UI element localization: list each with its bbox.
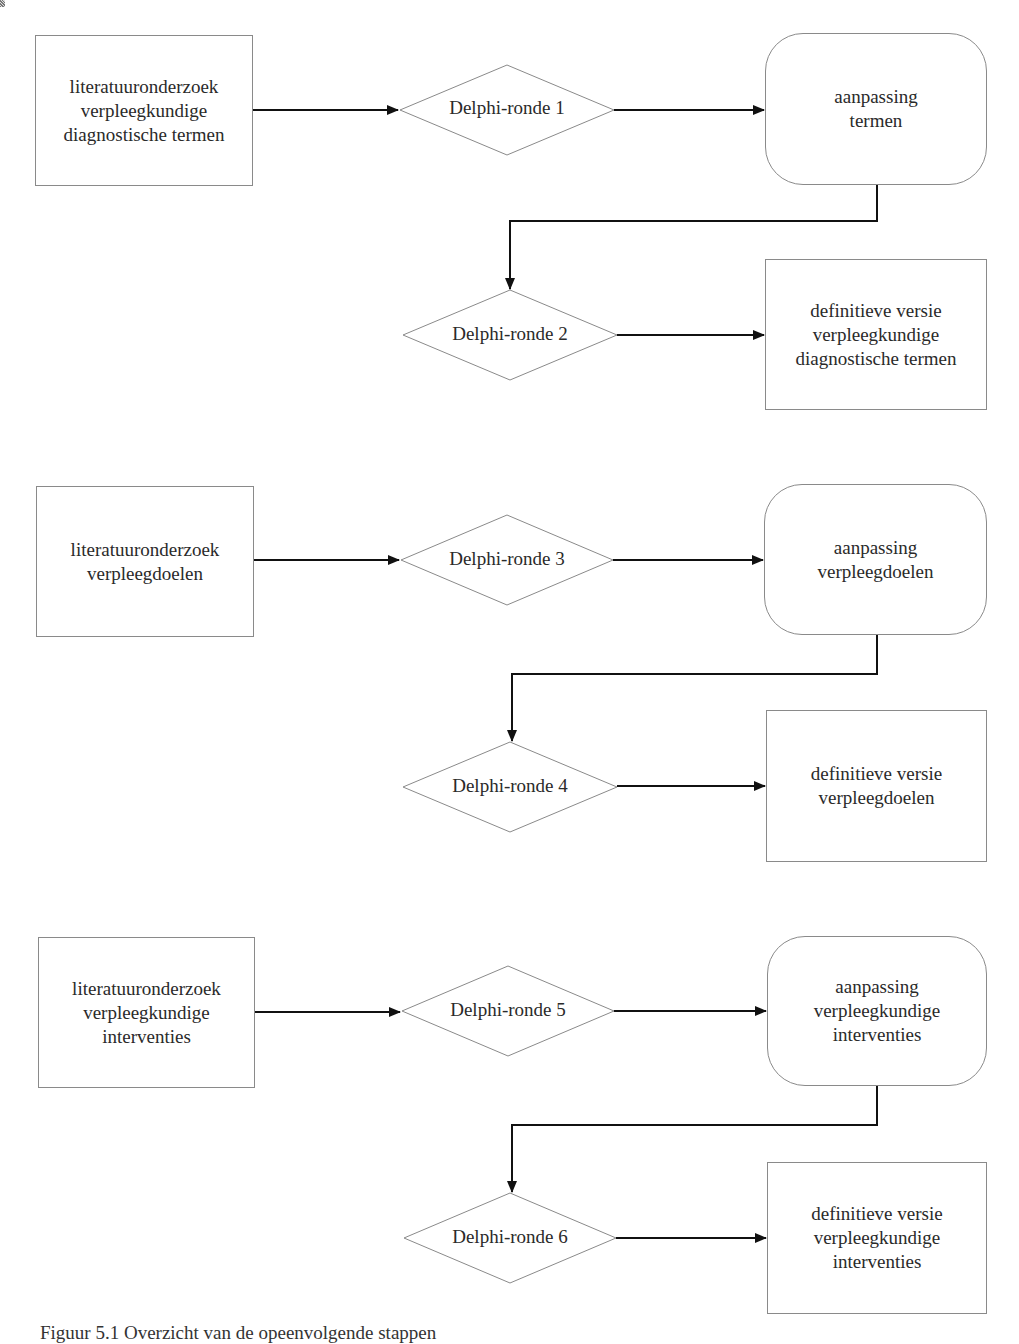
- box-text: aanpassing: [814, 975, 941, 999]
- box-text: verpleegkundige: [811, 1226, 942, 1250]
- box-text: verpleegkundige: [796, 323, 957, 347]
- box-text: definitieve versie: [796, 299, 957, 323]
- final-box-goals: definitieve versie verpleegdoelen: [766, 710, 987, 862]
- box-text: verpleegdoelen: [817, 560, 933, 584]
- box-text: aanpassing: [817, 536, 933, 560]
- box-text: interventies: [814, 1023, 941, 1047]
- adjust-box-diagnoses: aanpassing termen: [765, 33, 987, 185]
- diamond-label-delphi-2: Delphi-ronde 2: [452, 322, 568, 346]
- final-box-interventions: definitieve versie verpleegkundige inter…: [767, 1162, 987, 1314]
- box-text: interventies: [72, 1025, 221, 1049]
- box-text: verpleegdoelen: [811, 786, 942, 810]
- box-text: definitieve versie: [811, 1202, 942, 1226]
- diamond-label-delphi-5: Delphi-ronde 5: [450, 998, 566, 1022]
- adjust-box-goals: aanpassing verpleegdoelen: [764, 484, 987, 635]
- box-text: termen: [834, 109, 917, 133]
- box-text: literatuuronderzoek: [64, 75, 225, 99]
- box-text: verpleegkundige: [72, 1001, 221, 1025]
- source-box-diagnoses: literatuuronderzoek verpleegkundige diag…: [35, 35, 253, 186]
- box-text: diagnostische termen: [796, 347, 957, 371]
- diamond-label-delphi-1: Delphi-ronde 1: [449, 96, 565, 120]
- box-text: verpleegkundige: [64, 99, 225, 123]
- diamond-label-delphi-3: Delphi-ronde 3: [449, 547, 565, 571]
- diamond-label-delphi-6: Delphi-ronde 6: [452, 1225, 568, 1249]
- final-box-diagnoses: definitieve versie verpleegkundige diagn…: [765, 259, 987, 410]
- adjust-box-interventions: aanpassing verpleegkundige interventies: [767, 936, 987, 1086]
- box-text: aanpassing: [834, 85, 917, 109]
- box-text: definitieve versie: [811, 762, 942, 786]
- figure-caption: Figuur 5.1 Overzicht van de opeenvolgend…: [40, 1322, 436, 1344]
- source-box-interventions: literatuuronderzoek verpleegkundige inte…: [38, 937, 255, 1088]
- box-text: literatuuronderzoek: [71, 538, 220, 562]
- box-text: verpleegkundige: [814, 999, 941, 1023]
- diamond-label-delphi-4: Delphi-ronde 4: [452, 774, 568, 798]
- box-text: literatuuronderzoek: [72, 977, 221, 1001]
- box-text: verpleegdoelen: [71, 562, 220, 586]
- source-box-goals: literatuuronderzoek verpleegdoelen: [36, 486, 254, 637]
- box-text: interventies: [811, 1250, 942, 1274]
- box-text: diagnostische termen: [64, 123, 225, 147]
